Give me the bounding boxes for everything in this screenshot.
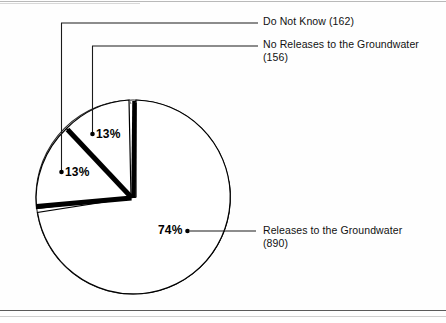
pie-chart-figure: Do Not Know (162) No Releases to the Gro… <box>0 0 446 323</box>
callout-label-no-releases-to-the-groundwater: No Releases to the Groundwater (156) <box>263 38 443 64</box>
callout-label-do-not-know: Do Not Know (162) <box>263 15 354 28</box>
slice-percent-do-not-know: 13% <box>65 165 90 179</box>
callout-label-releases-to-the-groundwater: Releases to the Groundwater (890) <box>263 224 443 250</box>
pie-slice-releases-right-edge <box>134 101 135 198</box>
leader-dot-releases <box>185 229 190 234</box>
slice-percent-releases: 74% <box>158 223 183 237</box>
slice-percent-no-releases: 13% <box>96 127 121 141</box>
leader-dot-do-not-know <box>59 170 64 175</box>
leader-dot-no-releases <box>90 132 95 137</box>
